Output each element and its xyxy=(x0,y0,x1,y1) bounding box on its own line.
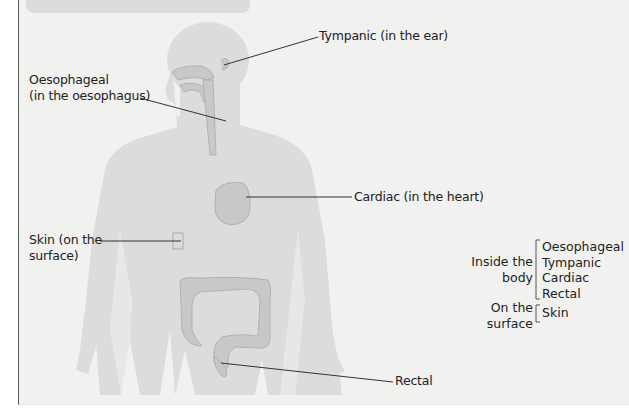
label-oesophageal-desc: (in the oesophagus) xyxy=(29,88,150,103)
label-skin-line2: surface) xyxy=(29,248,78,263)
legend-item: Skin xyxy=(542,305,569,321)
legend-heading-line: body xyxy=(471,270,533,286)
label-rectal: Rectal xyxy=(395,373,433,388)
legend-group-surface-items: Skin xyxy=(542,305,569,321)
legend-heading-line: Inside the xyxy=(471,254,533,270)
label-tympanic: Tympanic (in the ear) xyxy=(319,28,448,43)
label-cardiac: Cardiac (in the heart) xyxy=(354,189,484,204)
legend-heading-line: surface xyxy=(487,316,533,332)
legend-group-inside-heading: Inside the body xyxy=(471,254,533,285)
label-skin-line1: Skin (on the xyxy=(29,232,102,247)
legend-item: Rectal xyxy=(542,286,624,302)
legend-group-surface-heading: On the surface xyxy=(487,300,533,331)
label-oesophageal-title: Oesophageal xyxy=(29,72,109,87)
legend-group-inside-items: Oesophageal Tympanic Cardiac Rectal xyxy=(542,239,624,301)
legend-item: Oesophageal xyxy=(542,239,624,255)
legend-item: Cardiac xyxy=(542,270,624,286)
legend-heading-line: On the xyxy=(487,300,533,316)
legend-brackets xyxy=(536,240,540,322)
legend-item: Tympanic xyxy=(542,255,624,271)
